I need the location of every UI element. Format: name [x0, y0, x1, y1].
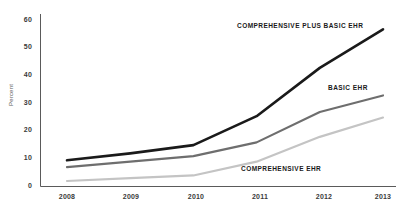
x-tick-2012: 2012: [309, 193, 339, 200]
x-tick-2010: 2010: [181, 193, 211, 200]
y-tick-30: 30: [14, 99, 32, 106]
plot-area: [0, 0, 403, 214]
line-chart: Percent 0 10 20 30 40 50 60 2008 2009 20…: [0, 0, 403, 214]
series-label-basic-ehr: BASIC EHR: [328, 84, 368, 91]
y-tick-20: 20: [14, 126, 32, 133]
series-label-comprehensive-plus-basic-ehr: COMPREHENSIVE PLUS BASIC EHR: [237, 22, 363, 29]
y-tick-0: 0: [14, 182, 32, 189]
x-tick-2011: 2011: [245, 193, 275, 200]
y-tick-50: 50: [14, 43, 32, 50]
series-label-comprehensive-ehr: COMPREHENSIVE EHR: [241, 165, 321, 172]
x-tick-2008: 2008: [52, 193, 82, 200]
y-tick-10: 10: [14, 154, 32, 161]
x-tick-2009: 2009: [116, 193, 146, 200]
y-tick-60: 60: [14, 16, 32, 23]
x-tick-2013: 2013: [368, 193, 398, 200]
y-tick-40: 40: [14, 71, 32, 78]
y-axis-title: Percent: [8, 75, 14, 115]
series-line-comprehensive-plus-basic-ehr: [67, 29, 383, 160]
